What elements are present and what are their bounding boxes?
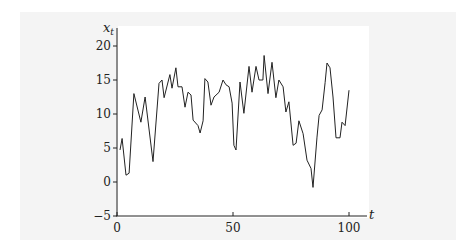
- x-tick-label: 0: [113, 221, 121, 235]
- y-axis-label: xt: [103, 20, 114, 37]
- series-line-x-t: [120, 56, 349, 188]
- y-tick-label: 15: [96, 73, 111, 87]
- x-axis-label: t: [369, 207, 375, 222]
- line-chart: −505101520050100 t xt: [0, 0, 471, 251]
- x-tick-label: 100: [338, 221, 361, 235]
- axes: −505101520050100: [93, 28, 367, 235]
- y-tick-label: −5: [93, 209, 111, 223]
- y-tick-label: 0: [103, 175, 111, 189]
- x-tick-label: 50: [225, 221, 240, 235]
- y-tick-label: 10: [96, 107, 111, 121]
- y-tick-label: 20: [96, 39, 111, 53]
- y-tick-label: 5: [103, 141, 111, 155]
